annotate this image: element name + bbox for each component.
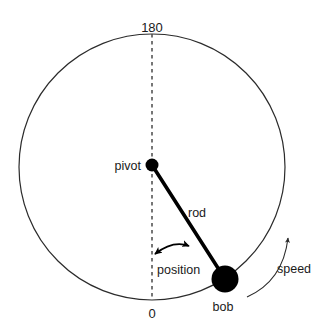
rod-label: rod — [188, 206, 206, 220]
bob-dot — [212, 266, 239, 293]
pivot-label: pivot — [115, 159, 142, 173]
pendulum-diagram-canvas: 180 0 pivot rod bob position speed — [0, 0, 324, 333]
position-label: position — [157, 263, 200, 277]
pivot-dot — [146, 159, 159, 172]
bob-label: bob — [213, 300, 234, 314]
pendulum-diagram: 180 0 pivot rod bob position speed — [0, 0, 324, 333]
rod-line — [152, 165, 225, 279]
speed-label: speed — [277, 262, 311, 276]
position-arc-arrow — [155, 244, 189, 254]
axis-bottom-label: 0 — [148, 306, 155, 321]
axis-top-label: 180 — [141, 20, 163, 35]
